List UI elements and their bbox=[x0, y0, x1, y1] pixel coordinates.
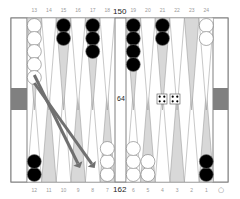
left-bar-marker bbox=[11, 88, 27, 110]
point-label: 2 bbox=[190, 187, 193, 193]
white-checker[interactable] bbox=[126, 168, 140, 182]
black-checker[interactable] bbox=[126, 45, 140, 59]
black-checker[interactable] bbox=[126, 19, 140, 33]
black-checker[interactable] bbox=[199, 155, 213, 169]
point-label: 12 bbox=[32, 187, 38, 193]
white-checker[interactable] bbox=[100, 155, 114, 169]
white-checker[interactable] bbox=[27, 58, 41, 72]
doubling-cube[interactable]: 64 bbox=[117, 95, 125, 102]
point-label: 22 bbox=[174, 7, 180, 13]
black-checker[interactable] bbox=[199, 168, 213, 182]
point-label: 5 bbox=[147, 187, 150, 193]
black-checker[interactable] bbox=[86, 19, 100, 33]
white-checker[interactable] bbox=[100, 142, 114, 156]
white-checker[interactable] bbox=[141, 155, 155, 169]
black-checker[interactable] bbox=[27, 155, 41, 169]
die bbox=[157, 94, 167, 104]
black-checker[interactable] bbox=[57, 19, 71, 33]
point-label: 14 bbox=[46, 7, 52, 13]
black-checker[interactable] bbox=[126, 58, 140, 72]
right-bar-marker bbox=[213, 88, 228, 110]
white-checker[interactable] bbox=[126, 142, 140, 156]
point-label: 6 bbox=[132, 187, 135, 193]
point-label: 21 bbox=[160, 7, 166, 13]
backgammon-board: 131415161718192021222324121110987654321 … bbox=[0, 0, 240, 199]
white-checker[interactable] bbox=[141, 168, 155, 182]
black-checker[interactable] bbox=[126, 32, 140, 46]
pip-count-top: 150 bbox=[113, 7, 127, 16]
black-checker[interactable] bbox=[86, 45, 100, 59]
point-label: 16 bbox=[75, 7, 81, 13]
black-checker[interactable] bbox=[57, 32, 71, 46]
white-checker[interactable] bbox=[27, 32, 41, 46]
point-label: 19 bbox=[131, 7, 137, 13]
turn-indicator: ○ bbox=[218, 186, 224, 194]
black-checker[interactable] bbox=[156, 19, 170, 33]
black-checker[interactable] bbox=[86, 32, 100, 46]
point-label: 23 bbox=[189, 7, 195, 13]
point-label: 10 bbox=[61, 187, 67, 193]
point-label: 24 bbox=[204, 7, 210, 13]
black-checker[interactable] bbox=[156, 32, 170, 46]
point-label: 18 bbox=[105, 7, 111, 13]
point-label: 15 bbox=[61, 7, 67, 13]
point-label: 1 bbox=[205, 187, 208, 193]
white-checker[interactable] bbox=[126, 155, 140, 169]
black-checker[interactable] bbox=[27, 168, 41, 182]
white-checker[interactable] bbox=[27, 45, 41, 59]
point-label: 8 bbox=[91, 187, 94, 193]
point-label: 3 bbox=[176, 187, 179, 193]
white-checker[interactable] bbox=[199, 19, 213, 33]
point-label: 13 bbox=[32, 7, 38, 13]
point-label: 7 bbox=[106, 187, 109, 193]
point-label: 17 bbox=[90, 7, 96, 13]
point-label: 20 bbox=[145, 7, 151, 13]
point-label: 9 bbox=[77, 187, 80, 193]
white-checker[interactable] bbox=[27, 19, 41, 33]
point-label: 11 bbox=[46, 187, 51, 193]
point-label: 4 bbox=[161, 187, 164, 193]
white-checker[interactable] bbox=[100, 168, 114, 182]
die bbox=[170, 94, 180, 104]
white-checker[interactable] bbox=[199, 32, 213, 46]
pip-count-bottom: 162 bbox=[113, 185, 127, 194]
